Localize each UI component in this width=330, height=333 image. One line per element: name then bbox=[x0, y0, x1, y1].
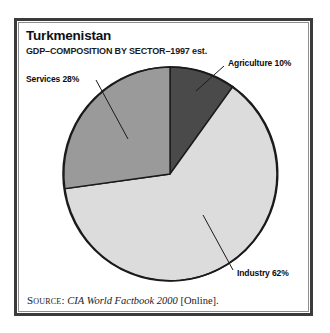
pie-slice-services[interactable] bbox=[64, 67, 170, 189]
figure-container: Turkmenistan GDP–COMPOSITION BY SECTOR–1… bbox=[0, 0, 330, 333]
pie-label-services: Services 28% bbox=[26, 74, 79, 84]
pie-label-agriculture: Agriculture 10% bbox=[228, 58, 291, 68]
source-suffix: [Online]. bbox=[180, 295, 218, 306]
source-note: Source: CIA World Factbook 2000 [Online]… bbox=[27, 294, 219, 307]
source-keyword: Source: bbox=[27, 294, 65, 306]
pie-chart-svg bbox=[0, 0, 330, 333]
source-publication: CIA World Factbook 2000 bbox=[67, 295, 178, 306]
pie-label-industry: Industry 62% bbox=[237, 268, 289, 278]
